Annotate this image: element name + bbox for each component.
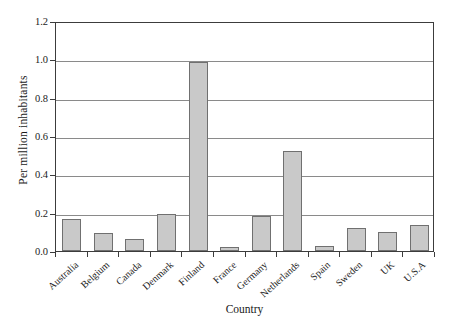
bar [378, 232, 397, 251]
x-tick-mark [150, 252, 151, 257]
gridline [56, 138, 433, 139]
bar [410, 225, 429, 251]
bar-chart: Per million inhabitants 1.21.00.80.60.40… [0, 0, 450, 329]
plot-area [55, 22, 434, 252]
gridline [56, 100, 433, 101]
x-tick-mark [213, 252, 214, 257]
x-tick-mark [181, 252, 182, 257]
y-tick-label: 0.8 [2, 94, 48, 104]
x-tick-mark [276, 252, 277, 257]
x-tick-mark [402, 252, 403, 257]
bar [157, 214, 176, 251]
bar [62, 219, 81, 251]
gridline [56, 176, 433, 177]
y-tick-label: 1.2 [2, 17, 48, 27]
gridline [56, 215, 433, 216]
bar [125, 239, 144, 251]
x-tick-mark [308, 252, 309, 257]
x-tick-mark [339, 252, 340, 257]
bar [347, 228, 366, 251]
y-tick-label: 0.0 [2, 247, 48, 257]
bar [252, 216, 271, 251]
y-tick-label: 1.0 [2, 55, 48, 65]
bar [315, 246, 334, 251]
x-tick-mark [434, 252, 435, 257]
bar [189, 62, 208, 251]
x-tick-mark [245, 252, 246, 257]
x-tick-mark [87, 252, 88, 257]
y-tick-label: 0.2 [2, 209, 48, 219]
y-tick-label: 0.4 [2, 170, 48, 180]
x-axis-title: Country [55, 303, 434, 315]
gridline [56, 61, 433, 62]
bar [94, 233, 113, 251]
y-tick-label: 0.6 [2, 132, 48, 142]
x-tick-mark [55, 252, 56, 257]
bar [220, 247, 239, 251]
x-tick-mark [371, 252, 372, 257]
bar [283, 151, 302, 251]
x-tick-mark [118, 252, 119, 257]
